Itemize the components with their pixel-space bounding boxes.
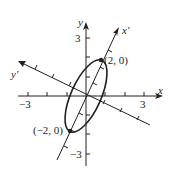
y-axis-label: y [77, 16, 83, 28]
point-label-neg2-0: (−2, 0) [33, 124, 63, 137]
point-label-2-0: (2, 0) [104, 54, 128, 67]
point-neg2-0 [68, 129, 72, 133]
x-prime-axis-arrowhead-icon [113, 27, 119, 36]
point-2-0 [99, 58, 103, 62]
x-axis-label: x [157, 84, 163, 96]
y-tick-label-3: 3 [75, 32, 81, 44]
x-prime-axis-label: x′ [121, 24, 130, 36]
x-tick-label-neg3: −3 [19, 98, 31, 110]
x-tick-label-3: 3 [140, 98, 146, 110]
rotated-ellipse-diagram: x y x′ y′ −3 3 3 −3 (2, 0) (−2, 0) [0, 0, 174, 185]
y-prime-axis-label: y′ [10, 68, 19, 80]
y-tick-label-neg3: −3 [70, 148, 82, 160]
